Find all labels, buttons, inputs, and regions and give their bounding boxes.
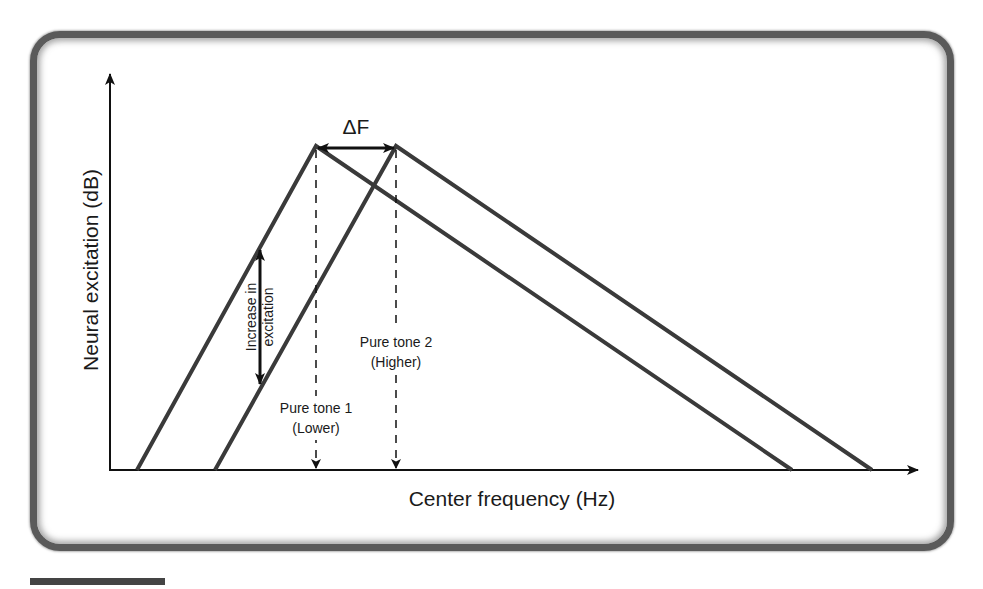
tone-1-label-line1: Pure tone 1 xyxy=(280,400,353,416)
delta-f-label: ΔF xyxy=(343,115,370,138)
increase-label-line1: Increase in xyxy=(243,283,259,351)
excitation-diagram: ΔF Increase in excitation Pure tone 2 (H… xyxy=(0,0,983,589)
increase-label-line2: excitation xyxy=(260,287,276,346)
caption-bar xyxy=(30,578,165,585)
y-axis-label: Neural excitation (dB) xyxy=(79,169,102,371)
tone-2-label-line1: Pure tone 2 xyxy=(360,334,433,350)
tone-2-label-line2: (Higher) xyxy=(371,354,422,370)
x-axis-label: Center frequency (Hz) xyxy=(409,487,616,510)
tone-1-label-line2: (Lower) xyxy=(292,420,339,436)
